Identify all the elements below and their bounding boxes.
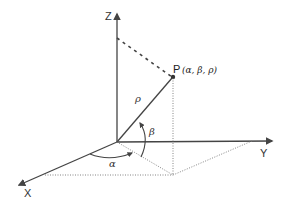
spherical-coordinates-diagram: Z Y X P (α, β, ρ) ρ β α — [0, 0, 282, 202]
y-axis — [117, 141, 272, 142]
beta-arc — [140, 123, 145, 157]
rho-label: ρ — [134, 93, 141, 104]
z-axis-label: Z — [105, 10, 112, 22]
x-axis — [19, 142, 117, 185]
z-projection-dashed — [117, 38, 172, 77]
point-p-label: P — [173, 63, 180, 75]
y-axis-label: Y — [260, 147, 268, 159]
beta-label: β — [148, 126, 155, 137]
y-projection-dotted — [173, 141, 252, 175]
alpha-label: α — [109, 158, 116, 169]
x-axis-label: X — [24, 187, 32, 199]
point-p-coords: (α, β, ρ) — [182, 65, 218, 75]
